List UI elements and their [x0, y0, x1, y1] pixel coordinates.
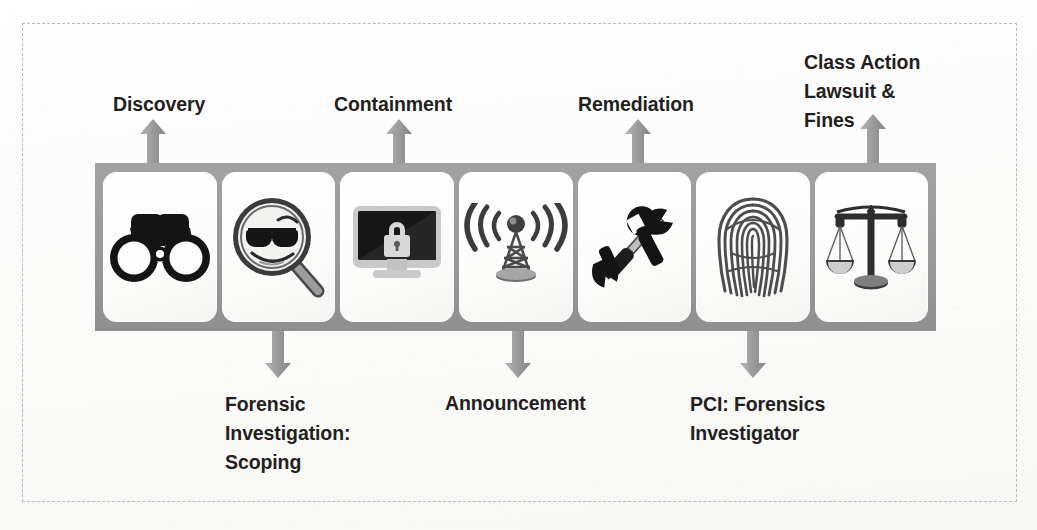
up-arrow-containment [386, 119, 412, 169]
wrench-screwdriver-icon [586, 204, 682, 290]
card-discovery[interactable] [103, 172, 217, 322]
diagram-canvas: Discovery Containment Remediation Class … [0, 0, 1037, 530]
label-discovery: Discovery [113, 91, 205, 117]
monitor-lock-icon [347, 202, 447, 292]
label-announcement: Announcement [445, 390, 586, 416]
broadcast-tower-icon [459, 203, 573, 291]
label-containment: Containment [334, 91, 452, 117]
down-arrow-forensic [265, 326, 291, 378]
card-forensic-investigation[interactable] [222, 172, 336, 322]
magnifier-smiley-icon [228, 195, 328, 299]
card-pci-forensics[interactable] [696, 172, 810, 322]
card-class-action-lawsuit[interactable] [815, 172, 929, 322]
label-class-action-lawsuit-fines: Class Action Lawsuit & Fines [804, 48, 920, 135]
up-arrow-remediation [625, 119, 651, 169]
fingerprint-icon [711, 193, 795, 301]
label-forensic-investigation-scoping: Forensic Investigation: Scoping [225, 390, 350, 477]
up-arrow-discovery [140, 119, 166, 169]
card-announcement[interactable] [459, 172, 573, 322]
scales-of-justice-icon [825, 199, 917, 295]
label-remediation: Remediation [578, 91, 694, 117]
down-arrow-pci [740, 326, 766, 378]
binoculars-icon [108, 210, 212, 284]
down-arrow-announcement [505, 326, 531, 378]
card-row [95, 163, 936, 331]
card-containment[interactable] [340, 172, 454, 322]
label-pci-forensics-investigator: PCI: Forensics Investigator [690, 390, 825, 448]
card-remediation[interactable] [578, 172, 692, 322]
